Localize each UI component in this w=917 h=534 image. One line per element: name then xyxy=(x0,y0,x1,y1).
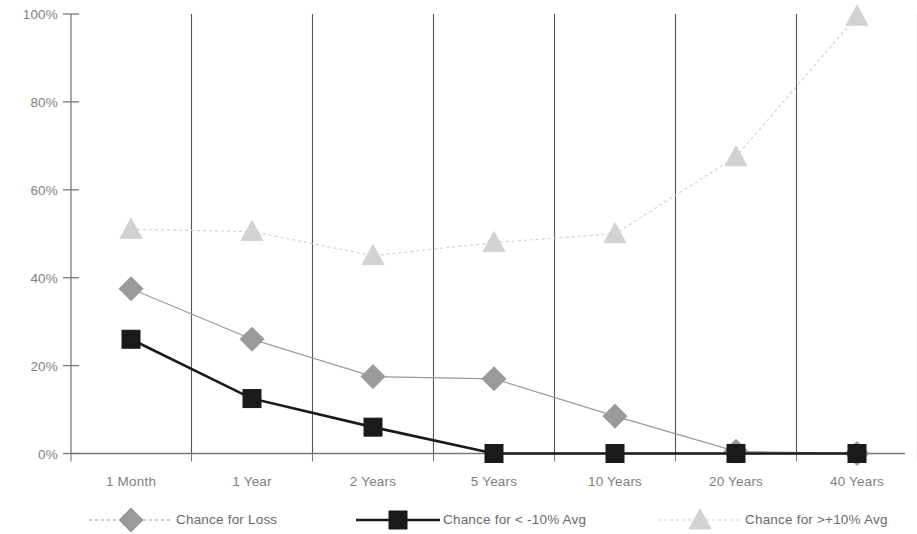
square-marker xyxy=(485,445,503,463)
x-axis-tick-label: 1 Month xyxy=(106,474,156,489)
series-line xyxy=(131,16,857,256)
plot-area xyxy=(0,0,917,534)
vertical-gridlines xyxy=(192,14,917,454)
y-axis-tick-label: 0% xyxy=(0,446,58,461)
triangle-marker xyxy=(846,5,868,25)
series-triangle xyxy=(120,5,868,265)
square-marker xyxy=(727,445,745,463)
square-marker xyxy=(122,330,140,348)
diamond-marker xyxy=(240,327,264,351)
square-marker xyxy=(848,445,866,463)
legend-item-label: Chance for >+10% Avg xyxy=(745,512,888,527)
x-axis-tick-label: 2 Years xyxy=(350,474,396,489)
legend-item-label: Chance for Loss xyxy=(176,512,277,527)
square-marker xyxy=(606,445,624,463)
diamond-marker xyxy=(119,277,143,301)
y-axis-tick-label: 40% xyxy=(0,270,58,285)
series-diamond xyxy=(119,277,869,466)
data-series-layer xyxy=(119,5,869,465)
triangle-marker xyxy=(604,223,626,243)
square-marker xyxy=(364,418,382,436)
x-axis-tick-label: 10 Years xyxy=(588,474,642,489)
legend-item-label: Chance for < -10% Avg xyxy=(443,512,586,527)
triangle-marker xyxy=(725,146,747,166)
y-axis-tick-label: 20% xyxy=(0,358,58,373)
x-axis-tick-label: 20 Years xyxy=(709,474,763,489)
series-square xyxy=(122,330,866,462)
y-axis-tick-label: 80% xyxy=(0,94,58,109)
x-axis-tick-label: 1 Year xyxy=(232,474,272,489)
square-marker xyxy=(389,511,407,529)
y-axis-tick-label: 100% xyxy=(0,7,58,22)
probability-line-chart: 0%20%40%60%80%100% 1 Month1 Year2 Years5… xyxy=(0,0,917,534)
x-axis-tick-label: 5 Years xyxy=(471,474,517,489)
y-axis-tick-label: 60% xyxy=(0,182,58,197)
triangle-marker xyxy=(689,509,711,529)
square-marker xyxy=(243,390,261,408)
diamond-marker xyxy=(361,365,385,389)
triangle-marker xyxy=(241,221,263,241)
x-axis-tick-label: 40 Years xyxy=(830,474,884,489)
series-line xyxy=(131,339,857,453)
diamond-marker xyxy=(482,367,506,391)
triangle-marker xyxy=(120,218,142,238)
diamond-marker xyxy=(603,404,627,428)
diamond-marker xyxy=(119,508,143,532)
axis-lines xyxy=(71,14,905,454)
